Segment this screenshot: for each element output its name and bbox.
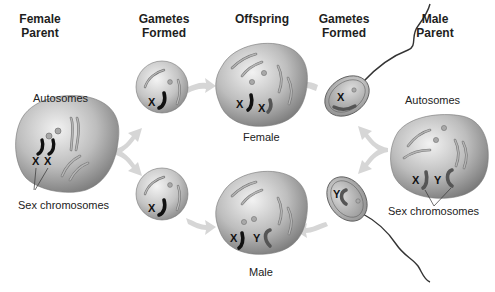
male-offspring-y-label: Y [253,232,261,244]
female-offspring-x2-label: X [258,102,266,114]
egg-bottom-cell: X [136,168,188,220]
header-gametes-right: Gametes Formed [304,12,384,40]
female-offspring-label: Female [243,131,280,143]
male-y-label: Y [434,174,442,186]
female-offspring-x1-label: X [236,98,244,110]
header-male-parent: Male Parent [395,12,475,40]
egg-top-cell: X [136,61,188,113]
header-gametes-left: Gametes Formed [124,12,204,40]
diagram-graphics: X X X X [0,0,495,292]
female-autosomes-label: Autosomes [33,92,88,104]
male-parent-cell: X Y [391,115,489,206]
male-offspring-label: Male [249,266,273,278]
egg-top-x-label: X [148,96,156,108]
female-x2-label: X [44,155,52,167]
male-sex-chromosomes-label: Sex chromosomes [388,205,479,217]
male-x-label: X [412,174,420,186]
male-offspring-x-label: X [230,232,238,244]
male-split-arrow [358,126,388,174]
male-autosomes-label: Autosomes [405,94,460,106]
female-sex-chromosomes-label: Sex chromosomes [18,199,109,211]
male-offspring-cell: X Y [216,171,308,254]
arrow-egg-top-to-female [186,78,216,93]
sex-determination-diagram: X X X X [0,0,495,292]
header-female-parent: Female Parent [8,12,72,40]
female-parent-cell: X X [16,95,119,192]
egg-bottom-x-label: X [148,202,156,214]
sperm-top-x-label: X [337,91,345,103]
arrow-egg-bottom-to-male [186,218,216,235]
sperm-bottom-y-label: Y [333,188,341,200]
female-offspring-cell: X X [216,43,308,126]
header-offspring: Offspring [222,12,302,26]
female-x1-label: X [32,155,40,167]
